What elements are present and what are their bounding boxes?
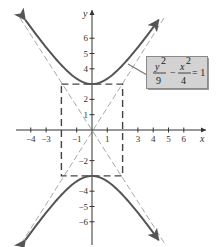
x-tick-label: 1 [105,134,110,144]
x-tick-label: 3 [136,134,141,144]
eq-rhs: = 1 [192,67,205,78]
eq-minus: − [170,67,176,78]
annotation-leader-line [128,64,147,75]
equation-label: y 2 9 − x 2 4 = 1 [147,55,210,90]
eq-exp-2: 2 [186,55,191,66]
eq-exp-1: 2 [161,55,166,66]
y-tick-label: 4 [84,64,89,74]
y-tick-label: −5 [78,202,88,212]
y-tick-label: 6 [84,33,89,43]
eq-denominator-4: 4 [181,75,186,86]
hyperbola-plot: −4−3−11345665421−2−4−5−6 x y y 2 9 − x 2… [0,0,224,247]
y-tick-label: 1 [84,110,89,120]
y-tick-label: −2 [78,156,88,166]
x-tick-label: −4 [26,134,36,144]
x-tick-label: −1 [72,134,82,144]
x-tick-label: −3 [41,134,51,144]
y-axis-label: y [82,8,88,19]
eq-numerator-y: y [154,61,160,72]
x-tick-label: 6 [182,134,187,144]
y-tick-label: −4 [78,186,88,196]
x-tick-label: 5 [166,134,171,144]
y-tick-label: 2 [84,94,89,104]
y-tick-label: −6 [78,217,88,227]
x-axis-label: x [199,133,205,144]
y-tick-label: 5 [84,49,89,59]
eq-numerator-x: x [179,61,185,72]
x-tick-label: 4 [151,134,156,144]
eq-denominator-9: 9 [156,75,161,86]
